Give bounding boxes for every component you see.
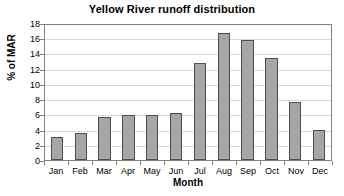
x-axis-tick-label: Sep <box>236 166 260 177</box>
y-axis-tick-label: 12 <box>18 66 40 75</box>
bar <box>75 133 87 160</box>
y-axis-tick-label: 18 <box>18 20 40 29</box>
bar <box>194 63 206 160</box>
x-axis-tick-label: Nov <box>284 166 308 177</box>
x-axis-tick-mark <box>284 161 285 165</box>
bar-slot <box>93 25 117 160</box>
bar-slot <box>236 25 260 160</box>
x-axis-tick-mark <box>140 161 141 165</box>
x-axis-tick-mark <box>188 161 189 165</box>
bar-chart: Yellow River runoff distribution % of MA… <box>0 0 344 196</box>
bar-slot <box>45 25 69 160</box>
bar <box>313 130 325 160</box>
x-axis-tick-label: Jun <box>164 166 188 177</box>
y-axis-tick-label: 6 <box>18 111 40 120</box>
bar <box>170 113 182 160</box>
x-axis-tick-label: Mar <box>92 166 116 177</box>
y-axis-tick-label: 14 <box>18 50 40 59</box>
x-axis-tick-label: Feb <box>68 166 92 177</box>
x-axis-tick-mark <box>308 161 309 165</box>
x-axis-tick-mark <box>212 161 213 165</box>
x-axis-tick-mark <box>260 161 261 165</box>
x-axis-tick-mark <box>68 161 69 165</box>
y-axis-tick-label: 0 <box>18 157 40 166</box>
bar <box>218 33 230 160</box>
x-axis-title: Month <box>44 177 332 188</box>
x-axis-tick-label: Oct <box>260 166 284 177</box>
x-axis-tick-mark <box>44 161 45 165</box>
bar-slot <box>164 25 188 160</box>
x-axis-tick-mark <box>116 161 117 165</box>
x-axis-tick-label: Apr <box>116 166 140 177</box>
x-axis-tick-mark <box>236 161 237 165</box>
x-axis-tick-mark <box>164 161 165 165</box>
bar <box>98 117 110 160</box>
x-axis-tick-label: Jan <box>44 166 68 177</box>
bar <box>122 115 134 160</box>
bar-slot <box>212 25 236 160</box>
bar <box>51 137 63 160</box>
x-axis-tick-mark <box>92 161 93 165</box>
x-axis-tick-marks <box>44 161 332 165</box>
y-axis-tick-label: 16 <box>18 35 40 44</box>
chart-title: Yellow River runoff distribution <box>0 3 344 15</box>
x-axis-tick-label: May <box>140 166 164 177</box>
x-axis-tick-mark <box>332 161 333 165</box>
bar-slot <box>116 25 140 160</box>
bar-slot <box>283 25 307 160</box>
y-axis-tick-labels: 024681012141618 <box>18 24 40 161</box>
x-axis-tick-label: Jul <box>188 166 212 177</box>
y-axis-tick-label: 2 <box>18 142 40 151</box>
y-axis-title: % of MAR <box>6 23 17 93</box>
y-axis-tick-label: 8 <box>18 96 40 105</box>
bar-slot <box>140 25 164 160</box>
bar <box>241 40 253 160</box>
bar-series <box>45 25 331 160</box>
plot-area <box>44 24 332 161</box>
x-axis-tick-label: Dec <box>308 166 332 177</box>
y-axis-tick-label: 4 <box>18 127 40 136</box>
bar <box>265 58 277 160</box>
bar <box>146 115 158 160</box>
x-axis-tick-labels: JanFebMarAprMayJunJulAugSepOctNovDec <box>44 166 332 177</box>
bar-slot <box>307 25 331 160</box>
bar-slot <box>69 25 93 160</box>
y-axis-tick-label: 10 <box>18 81 40 90</box>
bar-slot <box>259 25 283 160</box>
x-axis-tick-label: Aug <box>212 166 236 177</box>
bar-slot <box>188 25 212 160</box>
bar <box>289 102 301 160</box>
